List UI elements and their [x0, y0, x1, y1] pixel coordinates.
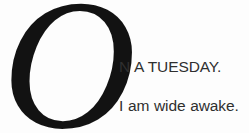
- drop-cap-letter: O: [2, 0, 120, 133]
- book-page-excerpt: O N A TUESDAY. I am wide awake.: [0, 0, 249, 133]
- text-line-second: I am wide awake.: [119, 95, 247, 117]
- text-block: N A TUESDAY. I am wide awake.: [119, 56, 247, 117]
- text-line-first: N A TUESDAY.: [119, 56, 247, 78]
